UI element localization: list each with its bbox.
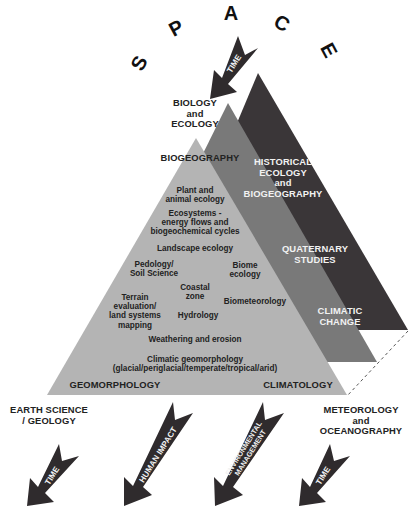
coastal-zone-label: Coastal zone — [175, 283, 215, 301]
ecosystems-label: Ecosystems - energy flows and biogeochem… — [145, 209, 245, 237]
biology-ecology-label: BIOLOGY and ECOLOGY — [168, 98, 222, 130]
biometeorology-label: Biometeorology — [220, 297, 290, 306]
plant-animal-ecology-label: Plant and animal ecology — [160, 186, 230, 204]
weathering-erosion-label: Weathering and erosion — [140, 335, 250, 344]
climatic-change-label: CLIMATIC CHANGE — [310, 306, 370, 327]
climatology-label: CLIMATOLOGY — [258, 380, 338, 391]
hydrology-label: Hydrology — [173, 311, 223, 320]
terrain-evaluation-label: Terrain evaluation/ land systems mapping — [100, 293, 170, 330]
biogeography-diagram: S P A C E TIME BIOLOGY and ECOLOGY BIOGE… — [0, 0, 414, 525]
biogeography-title: BIOGEOGRAPHY — [150, 153, 250, 164]
space-letter-a: A — [219, 1, 243, 25]
climatic-geomorphology-label: Climatic geomorphology (glacial/periglac… — [100, 355, 290, 373]
earth-science-label: EARTH SCIENCE / GEOLOGY — [6, 405, 92, 426]
biome-ecology-label: Biome ecology — [223, 261, 267, 279]
landscape-ecology-label: Landscape ecology — [150, 244, 240, 253]
pedology-label: Pedology/ Soil Science — [124, 260, 184, 278]
meteorology-oceanography-label: METEOROLOGY and OCEANOGRAPHY — [316, 405, 406, 437]
geomorphology-label: GEOMORPHOLOGY — [65, 380, 165, 391]
historical-ecology-label: HISTORICAL ECOLOGY and BIOGEOGRAPHY — [238, 157, 328, 199]
quaternary-studies-label: QUATERNARY STUDIES — [275, 244, 355, 265]
